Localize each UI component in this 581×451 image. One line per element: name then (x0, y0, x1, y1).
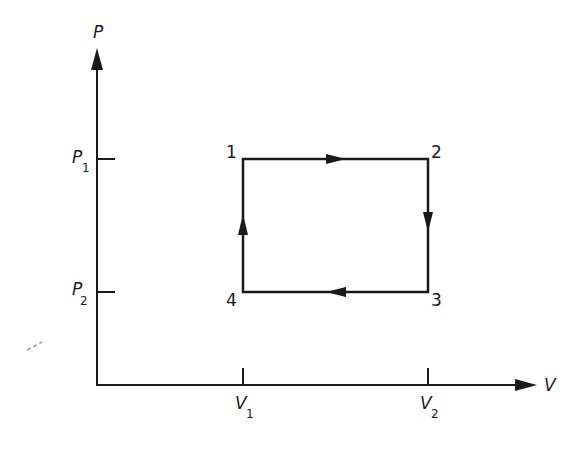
x-axis-label: V (544, 375, 557, 395)
state-2-label: 2 (431, 142, 442, 162)
y-tick-p1-sub: 1 (82, 161, 90, 175)
arrow-left-icon (326, 287, 346, 297)
x-axis: V V 1 V 2 (96, 368, 557, 421)
x-tick-v1-sub: 1 (246, 407, 254, 421)
y-axis-label: P (93, 22, 104, 42)
y-axis-arrow-icon (91, 48, 103, 70)
x-tick-v2-sub: 2 (431, 407, 439, 421)
stray-mark (27, 342, 42, 350)
x-axis-arrow-icon (515, 379, 537, 391)
state-1-label: 1 (226, 142, 237, 162)
cycle: 1 2 3 4 (226, 142, 442, 310)
arrow-up-icon (238, 214, 248, 235)
y-axis: P P 1 P 2 (72, 22, 115, 385)
y-tick-p2-sub: 2 (80, 294, 88, 308)
state-4-label: 4 (226, 290, 237, 310)
arrow-down-icon (423, 212, 433, 232)
pv-diagram: P P 1 P 2 V V 1 V 2 1 2 3 4 (0, 0, 581, 451)
arrow-right-icon (326, 154, 346, 164)
state-3-label: 3 (431, 290, 442, 310)
